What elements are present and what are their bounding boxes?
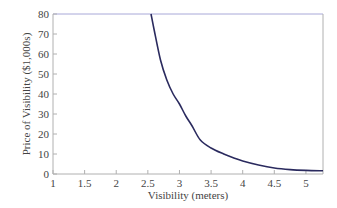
y-tick-label: 0	[44, 168, 50, 180]
price-curve	[151, 14, 323, 171]
y-tick-label: 70	[38, 28, 50, 40]
y-tick-label: 60	[38, 48, 50, 60]
x-tick-label: 5	[303, 177, 309, 189]
x-tick-label: 2	[113, 177, 119, 189]
y-tick-label: 30	[38, 108, 50, 120]
x-tick-label: 3.5	[204, 177, 218, 189]
x-tick-label: 4	[240, 177, 246, 189]
x-tick-label: 3	[177, 177, 183, 189]
y-tick-label: 50	[38, 68, 50, 80]
x-axis-label: Visibility (meters)	[148, 189, 229, 202]
x-axis-ticks: 11.522.533.544.55	[50, 170, 309, 189]
y-tick-label: 40	[38, 88, 50, 100]
y-axis-label: Price of Visibility ($1,000s)	[20, 32, 33, 155]
x-tick-label: 2.5	[141, 177, 155, 189]
y-tick-label: 80	[38, 8, 50, 20]
price-visibility-chart: 01020304050607080 11.522.533.544.55 Visi…	[0, 0, 337, 208]
y-tick-label: 10	[38, 148, 50, 160]
y-axis-ticks: 01020304050607080	[38, 8, 57, 180]
x-tick-label: 1	[50, 177, 56, 189]
plot-frame	[53, 14, 323, 174]
x-tick-label: 4.5	[267, 177, 281, 189]
y-tick-label: 20	[38, 128, 50, 140]
x-tick-label: 1.5	[78, 177, 92, 189]
